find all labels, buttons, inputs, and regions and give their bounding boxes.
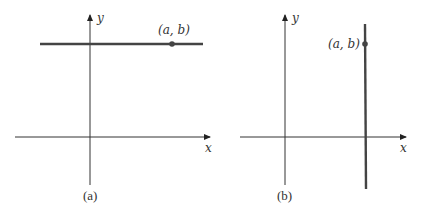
point-label: (a, b) (158, 23, 190, 37)
x-axis-label: x (205, 141, 212, 155)
panel-a: (a, b) x y (a) (15, 11, 212, 203)
x-axis-label: x (400, 141, 407, 155)
figure: (a, b) x y (a) (a, b) x y (b) (0, 0, 425, 211)
panel-caption: (a) (83, 188, 97, 203)
point-a-b (169, 41, 175, 47)
y-axis-label: y (96, 11, 104, 25)
vertical-line (365, 24, 366, 189)
point-a-b (362, 41, 368, 47)
point-label: (a, b) (328, 37, 360, 51)
panel-caption: (b) (277, 188, 292, 203)
y-axis-label: y (291, 11, 299, 25)
panel-b: (a, b) x y (b) (240, 11, 407, 203)
